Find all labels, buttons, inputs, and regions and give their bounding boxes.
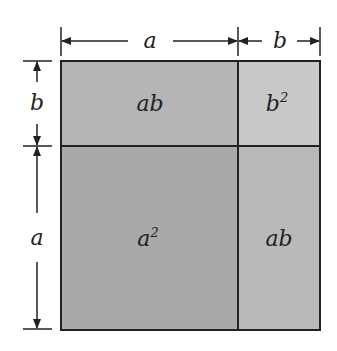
region-label-top-left: ab [136,91,163,116]
dim-label-left-b: b [30,90,44,115]
dim-label-top-b: b [273,28,287,53]
dim-label-top-a: a [143,28,156,53]
region-label-bottom-right: ab [265,226,292,251]
square-decomposition-diagram: a b b a ab b2 a2 ab [0,0,337,351]
dim-label-left-a: a [30,225,43,250]
